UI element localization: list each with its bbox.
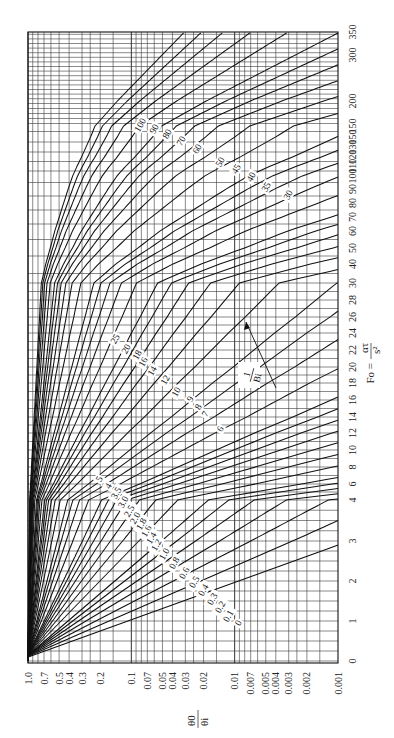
fo-tick-26: 26 — [347, 312, 358, 322]
curve-inv-bi-4 — [28, 283, 338, 661]
fo-tick-300: 300 — [347, 48, 358, 63]
theta-tick-label: 0.7 — [39, 672, 50, 685]
fo-tick-label: 150 — [347, 119, 358, 134]
theta-tick-label: 0.007 — [245, 672, 256, 695]
fo-tick-200: 200 — [347, 94, 358, 109]
fo-tick-label: 1 — [347, 619, 358, 624]
fo-tick-8: 8 — [347, 465, 358, 470]
theta-axis-ticks: 1.00.70.50.40.30.20.10.070.050.040.030.0… — [23, 672, 344, 695]
theta-title-denominator: θi — [198, 718, 210, 726]
fo-tick-40: 40 — [347, 259, 358, 269]
theta-tick-label: 0.004 — [270, 672, 281, 695]
theta-tick-label: 0.003 — [283, 672, 294, 695]
fo-tick-50: 50 — [347, 243, 358, 253]
fo-tick-1: 1 — [347, 619, 358, 624]
theta-tick-0.4: 0.4 — [64, 672, 75, 685]
theta-tick-0.2: 0.2 — [95, 672, 106, 685]
curve-label-90: 90 — [147, 121, 162, 138]
theta-tick-0.007: 0.007 — [245, 672, 256, 695]
theta-tick-0.03: 0.03 — [180, 672, 191, 690]
fo-tick-label: 4 — [347, 498, 358, 503]
fo-tick-18: 18 — [347, 378, 358, 388]
theta-tick-0.1: 0.1 — [126, 672, 137, 685]
fo-tick-label: 30 — [347, 278, 358, 288]
fo-tick-label: 22 — [347, 345, 358, 355]
theta-tick-label: 0.3 — [77, 672, 88, 685]
fo-tick-label: 40 — [347, 259, 358, 269]
fo-tick-10: 10 — [347, 445, 358, 455]
fo-tick-6: 6 — [347, 482, 358, 487]
theta-tick-label: 0.04 — [167, 672, 178, 690]
fo-tick-label: 200 — [347, 94, 358, 109]
fo-tick-2: 2 — [347, 579, 358, 584]
fo-tick-label: 24 — [347, 328, 358, 338]
fo-tick-label: 20 — [347, 362, 358, 372]
fo-tick-150: 150 — [347, 119, 358, 134]
fo-tick-4: 4 — [347, 498, 358, 503]
fo-tick-label: 18 — [347, 378, 358, 388]
theta-tick-label: 0.03 — [180, 672, 191, 690]
fo-tick-350: 350 — [347, 25, 358, 40]
theta-tick-0.001: 0.001 — [333, 672, 344, 695]
curve-label-50: 50 — [213, 154, 228, 171]
fo-tick-label: 3 — [347, 539, 358, 544]
fo-title-lhs: Fo = — [364, 363, 376, 384]
fo-tick-label: 26 — [347, 312, 358, 322]
fo-tick-label: 70 — [347, 212, 358, 222]
fo-tick-label: 50 — [347, 243, 358, 253]
fo-tick-12: 12 — [347, 428, 358, 438]
fo-tick-28: 28 — [347, 295, 358, 305]
fo-tick-label: 2 — [347, 579, 358, 584]
theta-title-numerator: θ0 — [185, 715, 197, 726]
fo-tick-label: 80 — [347, 198, 358, 208]
theta-tick-label: 0.001 — [333, 672, 344, 695]
fo-tick-label: 12 — [347, 428, 358, 438]
fo-tick-70: 70 — [347, 212, 358, 222]
fo-tick-label: 14 — [347, 412, 358, 422]
inverse-biot-denominator: Bi — [251, 372, 263, 384]
theta-tick-label: 0.2 — [95, 672, 106, 685]
theta-axis-title: θ0 θi — [185, 710, 210, 728]
fo-tick-label: 16 — [347, 395, 358, 405]
fo-tick-16: 16 — [347, 395, 358, 405]
fo-tick-90: 90 — [347, 184, 358, 194]
fo-tick-label: 28 — [347, 295, 358, 305]
theta-tick-0.003: 0.003 — [283, 672, 294, 695]
theta-tick-0.02: 0.02 — [198, 672, 209, 690]
fo-tick-3: 3 — [347, 539, 358, 544]
fo-title-denominator: s² — [370, 346, 382, 354]
fo-tick-30: 30 — [347, 278, 358, 288]
inverse-biot-annotation: 1 Bi — [238, 322, 276, 388]
theta-tick-0.3: 0.3 — [77, 672, 88, 685]
theta-tick-0.07: 0.07 — [142, 672, 153, 690]
theta-tick-0.002: 0.002 — [301, 672, 312, 695]
fo-tick-label: 8 — [347, 465, 358, 470]
theta-tick-label: 1.0 — [23, 672, 34, 685]
theta-tick-label: 0.1 — [126, 672, 137, 685]
fo-tick-label: 6 — [347, 482, 358, 487]
fo-tick-label: 60 — [347, 226, 358, 236]
fo-tick-20: 20 — [347, 362, 358, 372]
curve-label-35: 35 — [259, 179, 274, 196]
curve-label-12: 12 — [158, 372, 173, 389]
fo-tick-60: 60 — [347, 226, 358, 236]
fo-tick-0: 0 — [347, 659, 358, 664]
curve-label-45: 45 — [229, 161, 244, 178]
fo-tick-label: 90 — [347, 184, 358, 194]
fo-tick-label: 350 — [347, 25, 358, 40]
theta-tick-0.01: 0.01 — [229, 672, 240, 690]
curve-inv-bi-1_4 — [28, 431, 338, 661]
theta-tick-0.7: 0.7 — [39, 672, 50, 685]
fo-tick-24: 24 — [347, 328, 358, 338]
curve-inv-bi-10 — [28, 215, 338, 661]
fo-tick-80: 80 — [347, 198, 358, 208]
curve-inv-bi-16 — [28, 163, 338, 661]
fo-axis-ticks: 0123468101214161820222426283040506070809… — [347, 25, 358, 664]
theta-tick-label: 0.01 — [229, 672, 240, 690]
fo-tick-label: 300 — [347, 48, 358, 63]
curve-inv-bi-8 — [28, 235, 338, 661]
fo-tick-22: 22 — [347, 345, 358, 355]
theta-tick-1.0: 1.0 — [23, 672, 34, 685]
fo-tick-label: 0 — [347, 659, 358, 664]
theta-tick-0.004: 0.004 — [270, 672, 281, 695]
